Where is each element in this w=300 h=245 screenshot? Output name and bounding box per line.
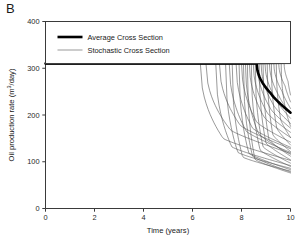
x-axis-tick-label: 10	[286, 213, 294, 222]
y-axis-tick-label: 200	[27, 111, 39, 120]
axis-labels-group: Time (years)Oil production rate (m3/day)	[6, 68, 190, 234]
chart-canvas: 01002003004000246810 Average Cross Secti…	[0, 0, 300, 245]
x-axis-tick-label: 6	[190, 213, 194, 222]
y-axis-tick-label: 300	[27, 64, 39, 73]
stochastic-curve	[46, 64, 291, 157]
stochastic-curve	[46, 64, 291, 167]
stochastic-curve	[46, 64, 291, 148]
stochastic-curve	[46, 64, 291, 153]
legend-box	[46, 22, 291, 64]
stochastic-curve	[46, 64, 291, 154]
x-axis-tick-label: 4	[141, 213, 145, 222]
y-axis-title: Oil production rate (m3/day)	[6, 68, 16, 161]
x-axis-title: Time (years)	[147, 226, 190, 235]
y-axis-tick-label: 400	[27, 17, 39, 26]
legend-label: Average Cross Section	[88, 33, 163, 42]
y-axis-tick-label: 0	[35, 204, 39, 213]
figure-panel-b: B 01002003004000246810 Average Cross Sec…	[0, 0, 300, 245]
x-axis-tick-label: 8	[239, 213, 243, 222]
stochastic-curve	[46, 64, 291, 133]
chart-legend: Average Cross SectionStochastic Cross Se…	[46, 22, 291, 64]
data-curves-group	[46, 64, 291, 173]
stochastic-curve	[46, 64, 291, 143]
stochastic-curve	[46, 64, 291, 152]
legend-label: Stochastic Cross Section	[88, 46, 170, 55]
stochastic-curve	[46, 64, 291, 173]
x-axis-tick-label: 0	[43, 213, 47, 222]
x-axis-tick-label: 2	[92, 213, 96, 222]
y-axis-tick-label: 100	[27, 157, 39, 166]
